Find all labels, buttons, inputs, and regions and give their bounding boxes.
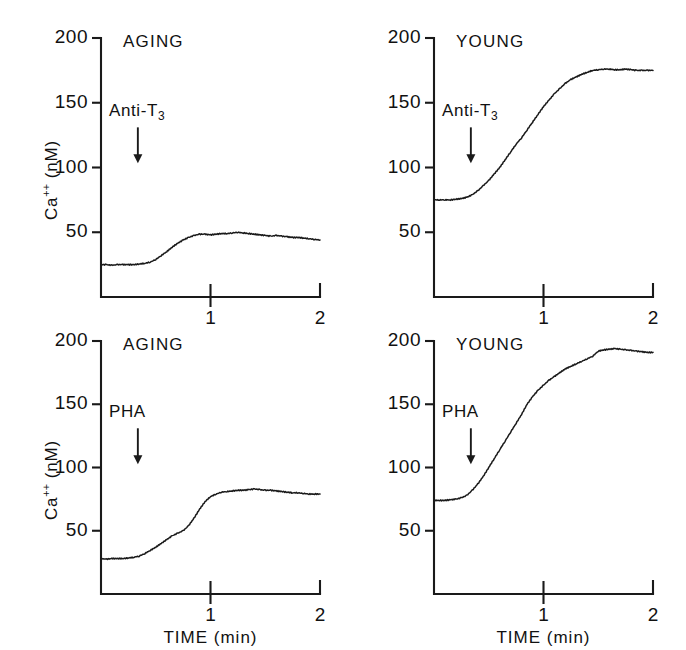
y-axis-label-bottom: Ca++ (nM) — [40, 440, 62, 520]
axis-spine — [434, 341, 653, 594]
x-axis-label-aging: TIME (min) — [101, 628, 320, 648]
panel-title-young-pha: YOUNG — [456, 335, 524, 355]
y-axis-label-top: Ca++ (nM) — [40, 140, 62, 220]
figure-panel-grid: 5010015020012AGINGAnti-T35010015020012YO… — [0, 0, 686, 650]
y-axis-label-superscript: ++ — [40, 183, 52, 196]
x-axis-label-young: TIME (min) — [434, 628, 653, 648]
stimulus-arrow-head — [466, 455, 475, 464]
y-tick-label-100: 100 — [388, 456, 421, 478]
y-tick-label-200: 200 — [388, 329, 421, 351]
chart-panel-young-pha: 5010015020012YOUNGPHA — [0, 0, 686, 650]
y-tick-label-50: 50 — [399, 519, 421, 541]
y-tick-label-150: 150 — [388, 392, 421, 414]
data-trace-young-pha — [434, 348, 653, 501]
y-axis-label-superscript: ++ — [40, 483, 52, 496]
plot-area-young-pha — [0, 0, 686, 650]
x-tick-label-1: 1 — [524, 604, 564, 626]
stimulus-label-young-pha: PHA — [442, 402, 479, 422]
x-tick-label-2: 2 — [633, 604, 673, 626]
